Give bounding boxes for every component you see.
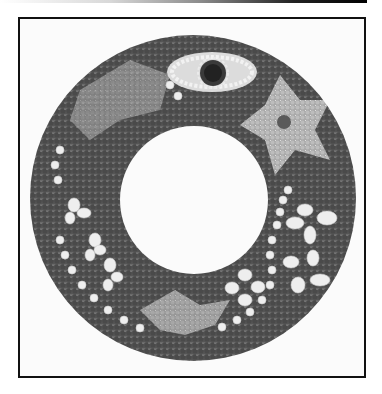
eye-ornament: [167, 52, 257, 92]
bead-wreath-image: [0, 0, 382, 394]
